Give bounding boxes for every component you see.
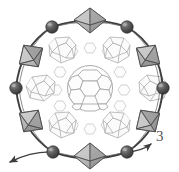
arrow-left [10,152,53,162]
octahedron-bottom [74,143,106,169]
small-cage [84,43,96,53]
octahedron-upper-right [129,37,167,74]
octahedron-upper-left [12,37,50,74]
metal-node-bottom-right [121,146,133,158]
metal-node-top-right [121,21,133,33]
metal-node-right [157,82,169,94]
metal-node-bottom-left [47,146,59,158]
cage-upper-right [103,37,130,63]
cage-lower-right [103,112,130,138]
small-cage [54,67,66,77]
cage-lower-left [49,112,76,138]
small-cage [84,124,96,134]
metal-node-top-left [46,21,58,33]
figure-number-label: 3 [156,129,164,144]
structure-figure: 3 [0,0,179,172]
small-cage [118,85,130,95]
octahedron-top [74,8,106,33]
small-cage [114,67,126,77]
metal-node-left [10,82,22,94]
octahedron-lower-left [12,102,50,139]
central-fullerene [68,66,113,112]
cage-mid-left [26,75,55,101]
small-cage [54,101,66,111]
cage-upper-left [49,37,76,63]
structure-diagram [0,0,179,172]
small-cage [114,101,126,111]
